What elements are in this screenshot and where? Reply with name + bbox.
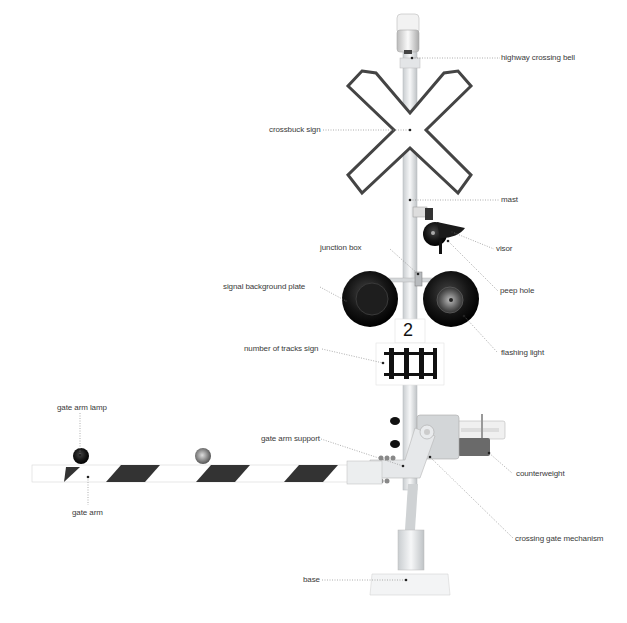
label-gate-arm-lamp: gate arm lamp bbox=[57, 403, 107, 412]
counterweight bbox=[455, 414, 505, 456]
label-crossbuck-sign: crossbuck sign bbox=[269, 125, 321, 134]
label-base: base bbox=[303, 575, 320, 584]
right-signal-lamp bbox=[423, 271, 479, 327]
gate-arm-lamp bbox=[73, 448, 211, 464]
label-number-of-tracks-sign: number of tracks sign bbox=[244, 344, 318, 353]
upper-signal bbox=[413, 207, 465, 254]
label-gate-arm-support: gate arm support bbox=[261, 434, 320, 443]
label-junction-box: junction box bbox=[320, 243, 362, 252]
base bbox=[370, 574, 450, 595]
left-signal-lamp bbox=[342, 271, 398, 327]
crossing-signal-illustration bbox=[0, 0, 627, 623]
number-of-tracks-sign bbox=[376, 343, 444, 385]
label-visor: visor bbox=[496, 244, 512, 253]
gate-arm bbox=[32, 461, 382, 484]
label-gate-arm: gate arm bbox=[72, 508, 103, 517]
label-crossing-gate-mechanism: crossing gate mechanism bbox=[515, 534, 603, 543]
label-mast: mast bbox=[501, 195, 518, 204]
label-peep-hole: peep hole bbox=[500, 286, 534, 295]
number-of-tracks-value: 2 bbox=[403, 320, 413, 341]
label-highway-crossing-bell: highway crossing bell bbox=[501, 53, 575, 62]
label-counterweight: counterweight bbox=[516, 469, 565, 478]
label-flashing-light: flashing light bbox=[501, 348, 544, 357]
base-column bbox=[398, 530, 424, 570]
highway-crossing-bell bbox=[397, 14, 419, 54]
label-signal-background-plate: signal background plate bbox=[223, 282, 305, 291]
